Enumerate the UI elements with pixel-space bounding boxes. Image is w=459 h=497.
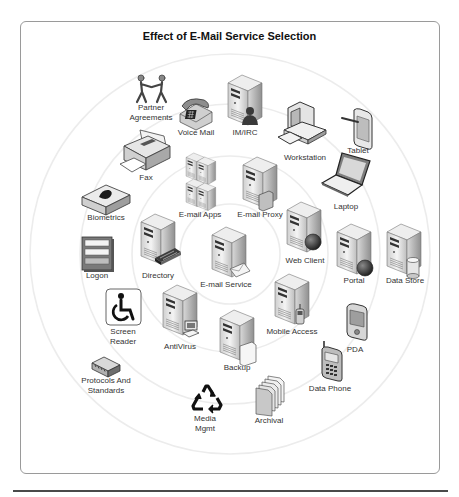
- node-email-apps: E-mail Apps: [179, 210, 222, 220]
- node-tablet: Tablet: [347, 146, 368, 156]
- node-label: Mgmt: [194, 424, 216, 434]
- tablet-icon: [342, 109, 372, 150]
- node-label: Partner: [129, 103, 172, 113]
- node-label: Media: [194, 414, 216, 424]
- recycle-icon: [193, 386, 221, 413]
- laptop-icon: [322, 153, 370, 197]
- node-biometrics: Biometrics: [87, 213, 124, 223]
- telephone-icon: [180, 99, 212, 130]
- node-im-irc: IM/IRC: [233, 128, 258, 138]
- document-stack-icon: [256, 376, 284, 416]
- node-directory: Directory: [142, 271, 174, 281]
- server-user-icon: [228, 75, 262, 125]
- node-web-client: Web Client: [286, 256, 325, 266]
- fax-machine-icon: [120, 130, 170, 172]
- diagram-icons: [0, 0, 459, 497]
- node-data-store: Data Store: [386, 276, 424, 286]
- node-screen-reader: Screen Reader: [110, 327, 136, 346]
- bottom-rule: [13, 490, 448, 492]
- server-directory-icon: [141, 214, 181, 265]
- pda-icon: [347, 304, 367, 340]
- node-laptop: Laptop: [334, 202, 358, 212]
- node-backup: Backup: [224, 363, 251, 373]
- node-portal: Portal: [344, 276, 365, 286]
- node-mobile-access: Mobile Access: [266, 327, 317, 337]
- desktop-computer-icon: [278, 102, 326, 144]
- server-mail-icon: [212, 227, 250, 277]
- hardware-module-icon: [92, 357, 120, 377]
- node-protocols-and-standards: Protocols And Standards: [81, 376, 130, 395]
- node-label: Standards: [81, 386, 130, 396]
- node-data-phone: Data Phone: [309, 384, 351, 394]
- node-voice-mail: Voice Mail: [178, 128, 214, 138]
- node-fax: Fax: [139, 173, 152, 183]
- server-database-icon: [387, 224, 421, 279]
- server-document-icon: [220, 310, 256, 366]
- node-label: Agreements: [129, 113, 172, 123]
- node-label: Protocols And: [81, 376, 130, 386]
- fingerprint-pad-icon: [82, 185, 130, 215]
- node-pda: PDA: [347, 345, 363, 355]
- node-label: Screen: [110, 327, 136, 337]
- server-globe-icon: [287, 202, 321, 252]
- mobile-phone-icon: [322, 341, 342, 381]
- server-globe-icon: [337, 224, 373, 276]
- node-workstation: Workstation: [284, 153, 326, 163]
- node-media-mgmt: Media Mgmt: [194, 414, 216, 433]
- login-form-icon: [82, 237, 114, 272]
- people-handshake-icon: [137, 75, 166, 102]
- server-proxy-icon: [243, 157, 277, 211]
- node-archival: Archival: [255, 416, 283, 426]
- server-cluster-icon: [186, 153, 216, 211]
- server-computer-icon: [163, 285, 199, 337]
- node-email-proxy: E-mail Proxy: [237, 210, 282, 220]
- node-antivirus: AntiVirus: [164, 342, 196, 352]
- node-partner-agreements: Partner Agreements: [129, 103, 172, 122]
- node-label: Reader: [110, 337, 136, 347]
- accessibility-icon: [106, 289, 141, 325]
- node-email-service: E-mail Service: [200, 280, 252, 290]
- node-logon: Logon: [86, 271, 108, 281]
- server-phone-icon: [275, 274, 309, 324]
